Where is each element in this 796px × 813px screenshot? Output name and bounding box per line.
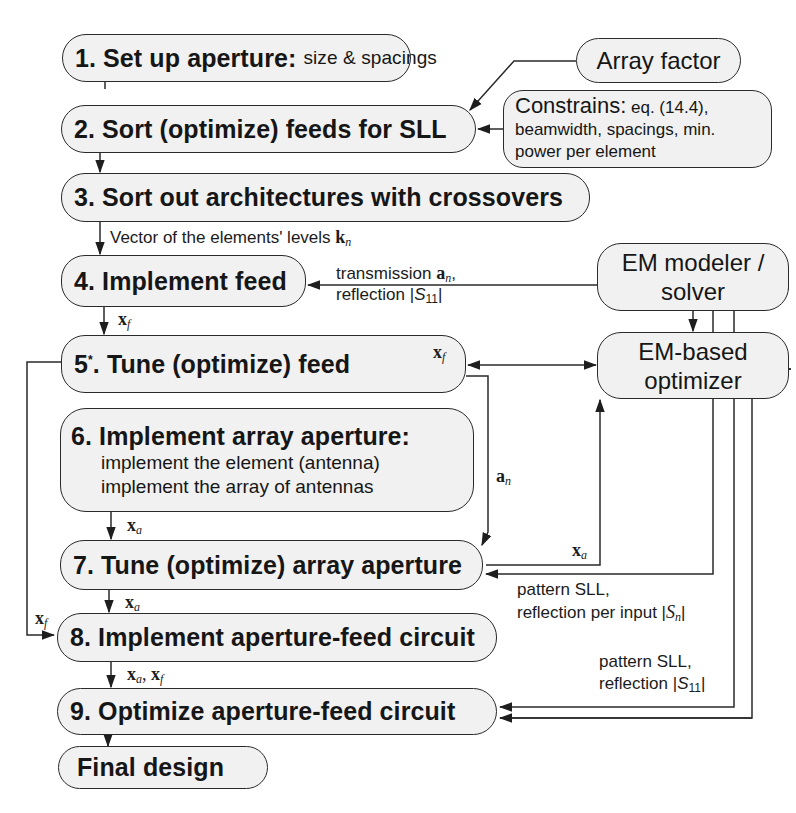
step-6-box: 6. Implement array aperture: implement t… [60,408,474,512]
step-2-title: 2. Sort (optimize) feeds for SLL [74,115,447,144]
reflection-s11-label-bottom: reflection |S11| [599,674,705,698]
an-label: an [496,466,511,491]
step-1-title: 1. Set up aperture: [75,44,296,73]
final-design-box: Final design [58,746,268,789]
xa-label-7-optimizer: xa [572,540,587,565]
pattern-sll-label-7: pattern SLL, [517,580,610,600]
step-1-box: 1. Set up aperture: size & spacings [62,34,411,82]
step-2-box: 2. Sort (optimize) feeds for SLL [61,105,476,153]
step-3-title: 3. Sort out architectures with crossover… [74,183,563,212]
constrains-line-3: power per element [515,141,656,163]
xf-label-5-optimizer: xf [433,342,445,367]
constrains-line-1: eq. (14.4), [631,98,709,117]
reflection-s11-label-top: reflection |S11| [336,285,442,309]
em-modeler-box: EM modeler / solver [597,243,789,311]
step-6-title: 6. Implement array aperture: [71,422,410,451]
step-8-box: 8. Implement aperture-feed circuit [57,613,497,662]
array-factor-label: Array factor [596,46,720,75]
step-6-detail-1: implement the element (antenna) [71,451,380,475]
step-7-title: 7. Tune (optimize) array aperture [73,551,462,580]
em-optimizer-line-2: optimizer [644,366,741,395]
step-8-title: 8. Implement aperture-feed circuit [70,623,475,652]
constrains-line-2: beamwidth, spacings, min. [515,119,715,141]
step-1-detail: size & spacings [303,47,437,69]
array-factor-box: Array factor [576,38,741,83]
constrains-head: Constrains: [515,93,626,118]
xa-label-7-8: xa [125,592,140,617]
step-7-box: 7. Tune (optimize) array aperture [60,540,483,590]
step-4-box: 4. Implement feed [61,255,306,307]
levels-label: Vector of the elements' levels kn [110,227,351,252]
step-5-box: 5*. Tune (optimize) feed [61,335,466,393]
xa-xf-label-8-9: xa, xf [127,664,163,689]
constrains-box: Constrains: eq. (14.4), beamwidth, spaci… [503,90,772,168]
final-design-title: Final design [77,753,224,782]
xf-label-4-5: xf [118,309,130,334]
step-9-box: 9. Optimize aperture-feed circuit [57,688,497,735]
reflection-per-input-label: reflection per input |Sn| [517,602,685,627]
step-5-title: 5*. Tune (optimize) feed [74,350,350,379]
em-modeler-line-1: EM modeler / [622,248,765,277]
step-6-detail-2: implement the array of antennas [71,475,374,499]
step-4-title: 4. Implement feed [74,267,287,296]
step-9-title: 9. Optimize aperture-feed circuit [70,697,455,726]
em-modeler-line-2: solver [661,277,725,306]
xf-label-bus-8: xf [35,608,47,633]
em-optimizer-box: EM-based optimizer [597,332,789,399]
em-optimizer-line-1: EM-based [638,337,747,366]
pattern-sll-label-9: pattern SLL, [599,652,692,672]
xa-label-6-7: xa [127,515,142,540]
step-3-box: 3. Sort out architectures with crossover… [61,173,590,222]
